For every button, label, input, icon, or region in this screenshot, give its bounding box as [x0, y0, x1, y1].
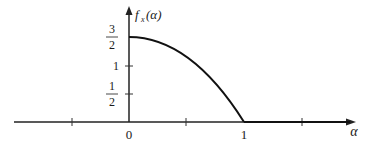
- density-curve: [129, 37, 244, 122]
- y-axis-label-arg: (α): [146, 7, 161, 22]
- y-tick-label-3-2-num: 3: [109, 22, 115, 36]
- y-tick-label-3-2-den: 2: [109, 38, 115, 52]
- chart: 0 1 α 3 2 1 1 2 f x (α): [0, 0, 366, 144]
- y-tick-label-1-2-num: 1: [109, 79, 115, 93]
- y-axis-label-sub: x: [140, 15, 145, 24]
- x-axis-label: α: [350, 124, 358, 139]
- y-tick-label-1: 1: [113, 59, 119, 73]
- x-tick-label-0: 0: [126, 127, 133, 142]
- y-tick-label-1-2-den: 2: [109, 95, 115, 109]
- x-tick-label-1: 1: [241, 127, 248, 142]
- y-axis-arrow-icon: [126, 6, 133, 15]
